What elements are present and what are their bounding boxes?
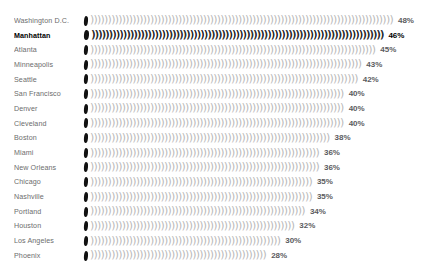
chart-row: San Francisco)))))))))))))))))))))))))))… — [14, 86, 435, 101]
value-label: 36% — [324, 148, 340, 157]
bar: ))))))))))))))))))))))))))))))))))))))))… — [84, 45, 374, 55]
chart-row: Chicago)))))))))))))))))))))))))))))))))… — [14, 175, 435, 190]
category-label: Cleveland — [14, 119, 81, 128]
category-label: Washington D.C. — [14, 16, 81, 25]
lead-marker-icon — [84, 250, 89, 260]
lead-marker-icon — [84, 133, 89, 143]
chart-row: Washington D.C.)))))))))))))))))))))))))… — [14, 13, 435, 28]
chart-row: Denver))))))))))))))))))))))))))))))))))… — [14, 101, 435, 116]
chart-row: Seattle)))))))))))))))))))))))))))))))))… — [14, 72, 435, 87]
category-label: Los Angeles — [14, 236, 81, 245]
value-label: 34% — [310, 207, 326, 216]
bar-glyphs: ))))))))))))))))))))))))))))))))))))))))… — [89, 89, 343, 99]
value-label: 42% — [363, 75, 379, 84]
bar: ))))))))))))))))))))))))))))))))))))))))… — [84, 177, 311, 187]
bar-glyphs: ))))))))))))))))))))))))))))))))))))))))… — [90, 30, 382, 40]
lead-marker-icon — [84, 221, 89, 231]
bar-glyphs: ))))))))))))))))))))))))))))))))))))))))… — [89, 206, 304, 216]
category-label: Phoenix — [14, 251, 81, 260]
value-label: 30% — [285, 236, 301, 245]
category-label: Minneapolis — [14, 60, 81, 69]
bar: ))))))))))))))))))))))))))))))))))))))))… — [84, 236, 279, 246]
category-label: Boston — [14, 133, 81, 142]
bar: ))))))))))))))))))))))))))))))))))))))))… — [84, 206, 304, 216]
lead-marker-icon — [84, 45, 89, 55]
value-label: 40% — [349, 89, 365, 98]
chart-row: Los Angeles)))))))))))))))))))))))))))))… — [14, 233, 435, 248]
pictogram-bar-chart: Washington D.C.)))))))))))))))))))))))))… — [0, 0, 435, 280]
bar: ))))))))))))))))))))))))))))))))))))))))… — [84, 221, 293, 231]
chart-row: Nashville)))))))))))))))))))))))))))))))… — [14, 189, 435, 204]
lead-marker-icon — [84, 60, 89, 70]
bar-glyphs: ))))))))))))))))))))))))))))))))))))))))… — [89, 103, 343, 113]
chart-rows: Washington D.C.)))))))))))))))))))))))))… — [14, 13, 435, 263]
bar-glyphs: ))))))))))))))))))))))))))))))))))))))))… — [89, 148, 318, 158]
bar: ))))))))))))))))))))))))))))))))))))))))… — [84, 59, 360, 69]
category-label: New Orleans — [14, 163, 81, 172]
category-label: Miami — [14, 148, 81, 157]
category-label: Atlanta — [14, 45, 81, 54]
value-label: 35% — [317, 177, 333, 186]
chart-row: Cleveland)))))))))))))))))))))))))))))))… — [14, 116, 435, 131]
lead-marker-icon — [84, 192, 89, 202]
lead-marker-icon — [84, 118, 89, 128]
lead-marker-icon — [84, 104, 89, 114]
category-label: Portland — [14, 207, 81, 216]
lead-marker-icon — [84, 89, 89, 99]
bar: ))))))))))))))))))))))))))))))))))))))))… — [84, 103, 343, 113]
category-label: Manhattan — [14, 31, 81, 40]
category-label: Denver — [14, 104, 81, 113]
bar-glyphs: ))))))))))))))))))))))))))))))))))))))))… — [89, 15, 392, 25]
bar: ))))))))))))))))))))))))))))))))))))))))… — [84, 74, 357, 84]
bar-glyphs: ))))))))))))))))))))))))))))))))))))))))… — [89, 221, 293, 231]
chart-row: Minneapolis)))))))))))))))))))))))))))))… — [14, 57, 435, 72]
lead-marker-icon — [84, 236, 89, 246]
chart-row: Miami)))))))))))))))))))))))))))))))))))… — [14, 145, 435, 160]
bar-glyphs: ))))))))))))))))))))))))))))))))))))))))… — [89, 162, 318, 172]
lead-marker-icon — [84, 148, 89, 158]
value-label: 35% — [317, 192, 333, 201]
bar-glyphs: ))))))))))))))))))))))))))))))))))))))))… — [89, 118, 343, 128]
chart-row: Atlanta)))))))))))))))))))))))))))))))))… — [14, 42, 435, 57]
bar: ))))))))))))))))))))))))))))))))))))))))… — [84, 133, 329, 143]
chart-row: Phoenix)))))))))))))))))))))))))))))))))… — [14, 248, 435, 263]
category-label: Houston — [14, 221, 81, 230]
lead-marker-icon — [84, 15, 89, 25]
chart-row: Houston)))))))))))))))))))))))))))))))))… — [14, 219, 435, 234]
bar: ))))))))))))))))))))))))))))))))))))))))… — [84, 118, 343, 128]
value-label: 28% — [271, 251, 287, 260]
chart-row: Portland))))))))))))))))))))))))))))))))… — [14, 204, 435, 219]
value-label: 32% — [299, 221, 315, 230]
bar-glyphs: ))))))))))))))))))))))))))))))))))))))))… — [89, 74, 357, 84]
bar: ))))))))))))))))))))))))))))))))))))))))… — [84, 148, 318, 158]
value-label: 40% — [349, 104, 365, 113]
value-label: 43% — [366, 60, 382, 69]
category-label: Nashville — [14, 192, 81, 201]
chart-row: Boston))))))))))))))))))))))))))))))))))… — [14, 131, 435, 146]
value-label: 38% — [335, 133, 351, 142]
chart-row: New Orleans)))))))))))))))))))))))))))))… — [14, 160, 435, 175]
lead-marker-icon — [84, 177, 89, 187]
bar-glyphs: ))))))))))))))))))))))))))))))))))))))))… — [89, 59, 360, 69]
value-label: 46% — [388, 31, 404, 40]
bar: ))))))))))))))))))))))))))))))))))))))))… — [84, 192, 311, 202]
value-label: 40% — [349, 119, 365, 128]
value-label: 36% — [324, 163, 340, 172]
value-label: 48% — [398, 16, 414, 25]
category-label: Seattle — [14, 75, 81, 84]
lead-marker-icon — [84, 206, 89, 216]
bar-glyphs: ))))))))))))))))))))))))))))))))))))))))… — [89, 236, 279, 246]
category-label: San Francisco — [14, 89, 81, 98]
bar: ))))))))))))))))))))))))))))))))))))))))… — [84, 89, 343, 99]
bar: ))))))))))))))))))))))))))))))))))))))))… — [84, 15, 392, 25]
bar-glyphs: ))))))))))))))))))))))))))))))))))))))))… — [89, 250, 265, 260]
bar-glyphs: ))))))))))))))))))))))))))))))))))))))))… — [89, 192, 311, 202]
bar: ))))))))))))))))))))))))))))))))))))))))… — [84, 250, 265, 260]
chart-row: Manhattan)))))))))))))))))))))))))))))))… — [14, 28, 435, 43]
bar: ))))))))))))))))))))))))))))))))))))))))… — [84, 162, 318, 172]
category-label: Chicago — [14, 177, 81, 186]
lead-marker-icon — [84, 74, 89, 84]
value-label: 45% — [380, 45, 396, 54]
bar: ))))))))))))))))))))))))))))))))))))))))… — [84, 30, 382, 40]
bar-glyphs: ))))))))))))))))))))))))))))))))))))))))… — [89, 177, 311, 187]
